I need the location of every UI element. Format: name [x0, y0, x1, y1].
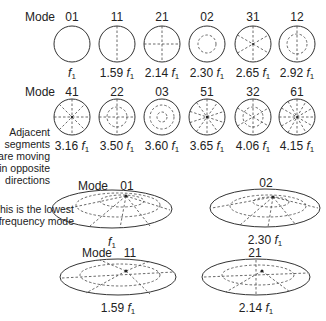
- freq-label: 2.14 f1: [239, 302, 274, 316]
- mode-number: 02: [200, 11, 213, 23]
- freq-label: 1.59 f1: [100, 67, 135, 81]
- freq-label: 2.30 f1: [190, 67, 225, 81]
- mode-number: 41: [65, 86, 78, 98]
- freq-label: 4.06 f1: [236, 140, 271, 154]
- freq-label: 3.60 f1: [145, 140, 180, 154]
- mode-number: 11: [111, 11, 123, 23]
- mode-number: 61: [290, 86, 303, 98]
- freq-label: f1: [68, 67, 76, 81]
- mode-number: 51: [200, 86, 213, 98]
- mode-01-circle: [54, 26, 90, 62]
- mode-number: 32: [246, 86, 259, 98]
- freq-label: 4.15 f1: [280, 140, 315, 154]
- mode-02-circle: [189, 26, 225, 62]
- mode-label: Mode: [25, 11, 55, 23]
- mode-label: Mode: [78, 180, 108, 192]
- mode-number: 01: [120, 180, 133, 192]
- mode-label: Mode: [82, 247, 112, 259]
- freq-label: 3.50 f1: [100, 140, 135, 154]
- adjacent-segments-note: Adjacent segments are moving in opposite…: [0, 126, 50, 186]
- mode-number: 21: [248, 247, 261, 259]
- freq-label: 3.16 f1: [55, 140, 90, 154]
- freq-label: 3.65 f1: [190, 140, 225, 154]
- mode-number: 02: [259, 177, 272, 189]
- mode-number: 22: [110, 86, 123, 98]
- freq-label: 2.65 f1: [236, 67, 271, 81]
- freq-label: 1.59 f1: [101, 302, 136, 316]
- lowest-mode-note: This is the lowest frequency mode: [0, 203, 74, 227]
- mode-label: Mode: [25, 86, 55, 98]
- mode-number: 21: [155, 11, 168, 23]
- mode-number: 12: [290, 11, 303, 23]
- mode-number: 01: [65, 11, 78, 23]
- freq-label: 2.14 f1: [145, 67, 180, 81]
- freq-label: 2.92 f1: [280, 67, 315, 81]
- mode-number: 31: [246, 11, 259, 23]
- mode-number: 11: [124, 247, 136, 259]
- mode-number: 03: [155, 86, 168, 98]
